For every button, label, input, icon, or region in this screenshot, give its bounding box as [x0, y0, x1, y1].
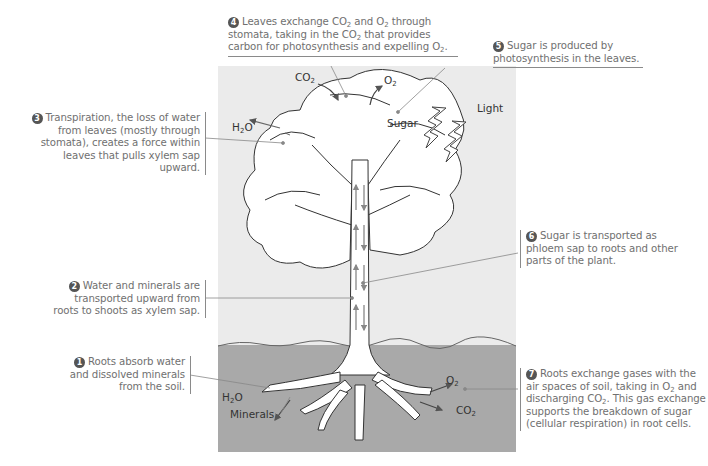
- label-text: H: [232, 121, 240, 133]
- label-sugar: Sugar: [387, 117, 418, 129]
- callout-text: photosynthesis in the leaves.: [493, 53, 639, 64]
- callout-text: Sugar is produced by: [507, 40, 613, 51]
- callout-text: Roots absorb water: [88, 356, 185, 367]
- label-o2-root: O2: [446, 374, 459, 386]
- callout-text: that provides: [361, 29, 430, 40]
- callout-5-sugar-production: 5Sugar is produced by photosynthesis in …: [493, 40, 643, 68]
- callout-2-xylem-transport: 2Water and minerals are transported upwa…: [44, 280, 206, 318]
- step-badge: 4: [228, 17, 239, 28]
- callout-1-root-absorption: 1Roots absorb water and dissolved minera…: [60, 356, 191, 394]
- callout-text: and O: [351, 16, 384, 27]
- subscript: 2: [311, 77, 315, 85]
- callout-6-phloem-transport: 6Sugar is transported as phloem sap to r…: [520, 230, 696, 268]
- tree-roots: [262, 372, 432, 440]
- callout-text: through: [389, 16, 431, 27]
- step-badge: 1: [74, 357, 85, 368]
- callout-4-leaf-gas-exchange: 4Leaves exchange CO2 and O2 through stom…: [228, 16, 458, 57]
- callout-text: and dissolved minerals: [70, 369, 185, 380]
- callout-text: parts of the plant.: [526, 255, 616, 266]
- callout-text: from leaves (mostly through: [58, 125, 200, 136]
- label-text: O: [244, 121, 252, 133]
- callout-text: leaves that pulls xylem sap upward.: [63, 150, 200, 174]
- callout-text: air spaces of soil, taking in O: [526, 381, 670, 392]
- step-badge: 6: [526, 231, 537, 242]
- subscript: 2: [454, 380, 458, 388]
- label-co2-leaf: CO2: [295, 71, 315, 83]
- label-h2o-root: H2O: [222, 391, 243, 403]
- callout-7-root-gas-exchange: 7Roots exchange gases with the air space…: [520, 368, 706, 431]
- label-h2o-leaf: H2O: [232, 121, 253, 133]
- callout-text: phloem sap to roots and other: [526, 243, 678, 254]
- callout-text: from the soil.: [119, 381, 185, 392]
- callout-text: Sugar is transported as: [540, 230, 657, 241]
- subscript: 2: [392, 80, 396, 88]
- label-light: Light: [477, 102, 503, 114]
- callout-text: and: [675, 381, 697, 392]
- step-badge: 5: [493, 41, 504, 52]
- callout-text: Transpiration, the loss of water: [46, 112, 200, 123]
- callout-text: .: [444, 41, 447, 52]
- label-text: CO: [456, 404, 472, 416]
- callout-text: carbon for photosynthesis and expelling …: [228, 41, 440, 52]
- callout-text: discharging CO: [526, 393, 602, 404]
- label-text: CO: [295, 71, 311, 83]
- step-badge: 2: [69, 281, 80, 292]
- label-co2-root: CO2: [456, 404, 476, 416]
- callout-text: Leaves exchange CO: [242, 16, 347, 27]
- callout-text: supports the breakdown of sugar: [526, 406, 692, 417]
- callout-text: Roots exchange gases with the: [540, 368, 696, 379]
- callout-text: stomata, taking in the CO: [228, 29, 357, 40]
- step-badge: 3: [32, 113, 43, 124]
- label-minerals: Minerals: [230, 408, 274, 420]
- callout-text: Water and minerals are: [83, 280, 200, 291]
- callout-text: roots to shoots as xylem sap.: [53, 305, 200, 316]
- label-text: H: [222, 391, 230, 403]
- step-badge: 7: [526, 369, 537, 380]
- callout-text: . This gas exchange: [606, 393, 705, 404]
- subscript: 2: [472, 410, 476, 418]
- callout-text: transported upward from: [74, 293, 200, 304]
- label-o2-leaf: O2: [384, 74, 397, 86]
- label-text: O: [234, 391, 242, 403]
- callout-text: stomata), creates a force within: [41, 137, 200, 148]
- callout-text: (cellular respiration) in root cells.: [526, 418, 691, 429]
- callout-3-transpiration: 3Transpiration, the loss of water from l…: [24, 112, 206, 175]
